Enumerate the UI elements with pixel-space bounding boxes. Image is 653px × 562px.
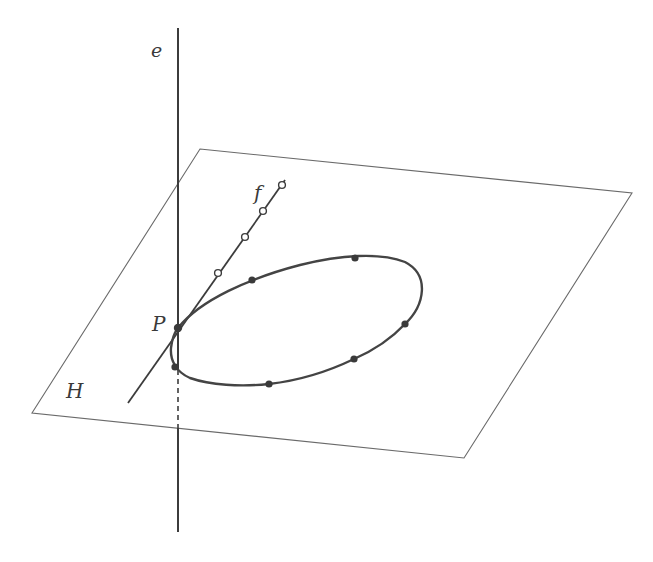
geometry-figure: e f P H	[0, 0, 653, 562]
curve-point	[350, 355, 357, 362]
conic-curve	[171, 256, 422, 386]
open-point	[215, 270, 222, 277]
point-p	[174, 324, 182, 332]
label-e: e	[151, 39, 162, 61]
open-point	[279, 182, 286, 189]
curve-points	[171, 254, 408, 387]
diagram-canvas: e f P H	[0, 0, 653, 562]
open-point	[242, 234, 249, 241]
label-p: P	[151, 312, 166, 336]
curve-point	[401, 320, 408, 327]
label-f: f	[252, 181, 265, 205]
curve-point	[248, 276, 255, 283]
curve-point	[351, 254, 358, 261]
curve-point	[265, 380, 272, 387]
open-point	[260, 208, 267, 215]
plane-h	[32, 149, 632, 458]
curve-point	[171, 363, 178, 370]
label-h: H	[65, 379, 84, 403]
